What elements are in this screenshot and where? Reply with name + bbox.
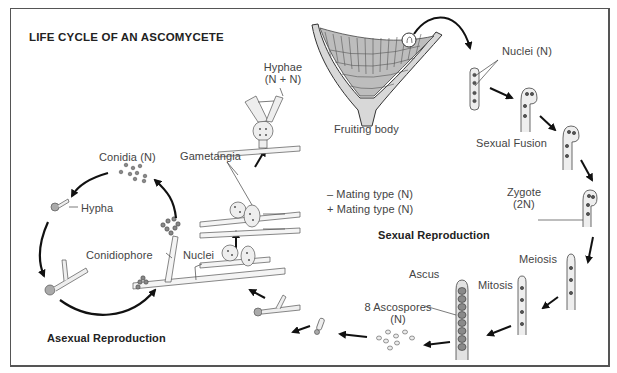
label-zygote-text: Zygote [506,186,542,198]
label-sexual-fusion: Sexual Fusion [476,137,547,149]
label-zygote: Zygote (2N) [506,186,542,210]
spore-with-hypha [254,295,300,316]
diagram-title: LIFE CYCLE OF AN ASCOMYCETE [29,31,224,44]
label-sexual-reproduction: Sexual Reproduction [378,229,490,241]
label-nuclei: Nuclei [183,249,214,261]
label-ascospores-ploidy: (N) [358,313,438,325]
label-conidiophore: Conidiophore [86,249,153,261]
label-zygote-ploidy: (2N) [506,198,542,210]
label-conidia: Conidia (N) [99,151,156,163]
label-hyphae: Hyphae (N + N) [253,61,313,85]
germinating-spore [315,318,325,335]
label-fruiting-body: Fruiting body [334,123,399,135]
ascospores-drawing [377,330,415,350]
ascus-development-cells [456,68,597,360]
hyphal-strands [133,96,300,289]
label-nuclei-n: Nuclei (N) [502,45,552,57]
label-ascospores: 8 Ascospores (N) [358,301,438,325]
label-gametangia: Gametangia [180,150,241,162]
label-ascus: Ascus [409,268,439,280]
label-hyphae-ploidy: (N + N) [253,73,313,85]
label-hypha: Hypha [81,202,113,214]
conidia-cluster [119,163,147,183]
label-hyphae-text: Hyphae [253,61,313,73]
label-mitosis: Mitosis [478,279,513,291]
label-mating-plus: + Mating type (N) [327,203,413,215]
fruiting-body-drawing [312,24,442,126]
label-meiosis: Meiosis [519,253,557,265]
label-ascospores-text: 8 Ascospores [358,301,438,313]
label-asexual-reproduction: Asexual Reproduction [47,332,166,344]
label-mating-minus: – Mating type (N) [327,188,413,200]
